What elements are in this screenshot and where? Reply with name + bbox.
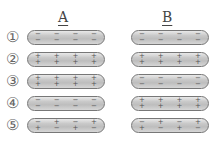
minus-charge-icon: − xyxy=(90,37,98,44)
charge-row-bottom: ++++ xyxy=(34,81,98,88)
plus-charge-icon: + xyxy=(34,81,42,88)
row-label-1: ① xyxy=(3,28,21,46)
charge-row-bottom: −−−− xyxy=(138,37,202,44)
minus-charge-icon: − xyxy=(34,37,42,44)
rod-b-4: ++++++++ xyxy=(131,96,209,111)
row-label-3: ③ xyxy=(3,72,21,90)
plus-charge-icon: + xyxy=(71,125,79,132)
minus-charge-icon: − xyxy=(175,37,183,44)
minus-charge-icon: − xyxy=(157,81,165,88)
charge-row-bottom: −−−− xyxy=(34,103,98,110)
rod-b-2: ++++++++ xyxy=(131,52,209,67)
plus-charge-icon: + xyxy=(90,81,98,88)
plus-charge-icon: + xyxy=(157,103,165,110)
minus-charge-icon: − xyxy=(71,103,79,110)
minus-charge-icon: − xyxy=(157,37,165,44)
plus-charge-icon: + xyxy=(53,81,61,88)
rod-a-3: ++++++++ xyxy=(27,74,105,89)
plus-charge-icon: + xyxy=(157,59,165,66)
plus-charge-icon: + xyxy=(71,81,79,88)
charge-row-bottom: ++++ xyxy=(138,103,202,110)
plus-charge-icon: + xyxy=(71,59,79,66)
minus-charge-icon: − xyxy=(138,81,146,88)
minus-charge-icon: − xyxy=(194,125,202,132)
plus-charge-icon: + xyxy=(53,59,61,66)
plus-charge-icon: + xyxy=(34,59,42,66)
rod-a-2: ++++++++ xyxy=(27,52,105,67)
minus-charge-icon: − xyxy=(53,103,61,110)
minus-charge-icon: − xyxy=(53,125,61,132)
charge-row-bottom: −−−− xyxy=(34,37,98,44)
rod-a-1: −−−−−−−− xyxy=(27,30,105,45)
minus-charge-icon: − xyxy=(90,125,98,132)
minus-charge-icon: − xyxy=(157,125,165,132)
rod-b-5: −+−++−+− xyxy=(131,118,209,133)
minus-charge-icon: − xyxy=(194,37,202,44)
row-label-2: ② xyxy=(3,50,21,68)
plus-charge-icon: + xyxy=(194,103,202,110)
charge-row-bottom: +−+− xyxy=(34,125,98,132)
plus-charge-icon: + xyxy=(34,125,42,132)
plus-charge-icon: + xyxy=(90,59,98,66)
minus-charge-icon: − xyxy=(138,37,146,44)
minus-charge-icon: − xyxy=(71,37,79,44)
column-header-a: A xyxy=(58,9,68,25)
minus-charge-icon: − xyxy=(34,103,42,110)
row-label-4: ④ xyxy=(3,94,21,112)
plus-charge-icon: + xyxy=(175,59,183,66)
plus-charge-icon: + xyxy=(175,103,183,110)
minus-charge-icon: − xyxy=(90,103,98,110)
column-header-b: B xyxy=(162,9,172,25)
plus-charge-icon: + xyxy=(175,125,183,132)
rod-b-1: −−−−−−−− xyxy=(131,30,209,45)
charge-row-bottom: +−+− xyxy=(138,125,202,132)
charge-row-bottom: ++++ xyxy=(138,59,202,66)
rod-a-5: −+−++−+− xyxy=(27,118,105,133)
plus-charge-icon: + xyxy=(138,125,146,132)
charge-row-bottom: −−−− xyxy=(138,81,202,88)
rod-a-4: −−−−−−−− xyxy=(27,96,105,111)
minus-charge-icon: − xyxy=(194,81,202,88)
plus-charge-icon: + xyxy=(138,103,146,110)
row-label-5: ⑤ xyxy=(3,116,21,134)
minus-charge-icon: − xyxy=(175,81,183,88)
rod-b-3: −−−−−−−− xyxy=(131,74,209,89)
minus-charge-icon: − xyxy=(53,37,61,44)
plus-charge-icon: + xyxy=(138,59,146,66)
charge-row-bottom: ++++ xyxy=(34,59,98,66)
plus-charge-icon: + xyxy=(194,59,202,66)
